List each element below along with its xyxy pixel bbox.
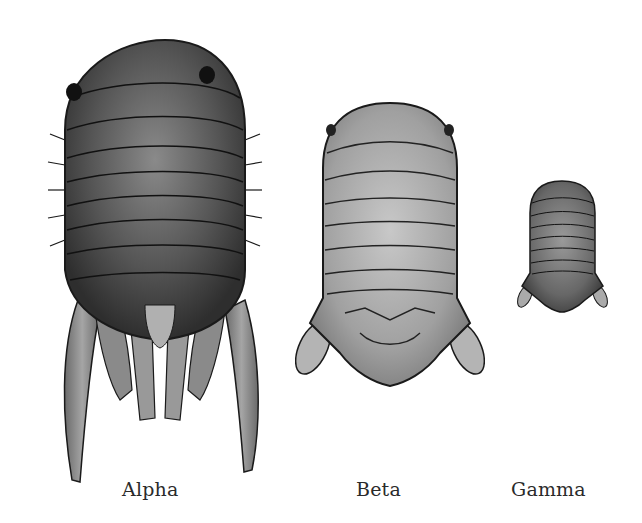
specimen-gamma — [515, 178, 610, 313]
isopod-beta-illustration — [295, 98, 485, 388]
isopod-gamma-illustration — [515, 178, 610, 313]
label-beta: Beta — [356, 478, 401, 500]
specimen-alpha — [40, 30, 280, 490]
specimen-beta — [295, 98, 485, 388]
label-alpha: Alpha — [122, 478, 179, 500]
isopod-alpha-illustration — [40, 30, 280, 490]
label-gamma: Gamma — [511, 478, 586, 500]
